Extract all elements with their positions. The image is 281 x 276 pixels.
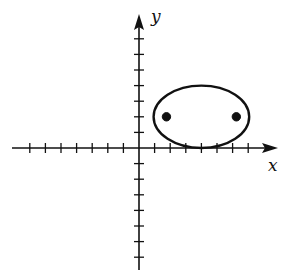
focus-right-dot [232,113,240,121]
y-axis-label: y [150,6,161,26]
x-axis-label: x [268,155,278,175]
coordinate-plane: y x [0,0,281,276]
focus-points [162,113,240,121]
focus-left-dot [162,113,170,121]
